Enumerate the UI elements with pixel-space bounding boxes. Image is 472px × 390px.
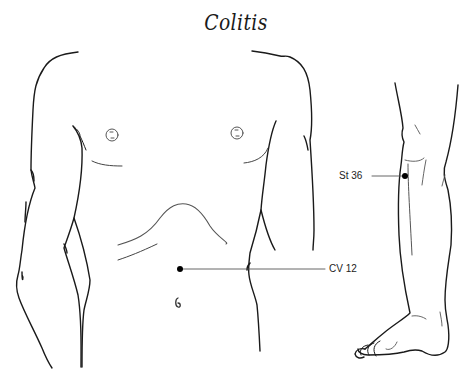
rib-arc [118, 204, 227, 245]
st36-label: St 36 [339, 170, 362, 181]
nipple-right [231, 127, 243, 139]
anatomy-illustration [0, 0, 472, 390]
navel-mark [176, 298, 181, 307]
nipple-left [106, 129, 118, 141]
st36-point-dot [402, 173, 408, 179]
cv12-point-dot [177, 266, 183, 272]
torso-figure [17, 51, 314, 368]
cv12-label: CV 12 [329, 263, 357, 274]
leg-figure [355, 83, 458, 358]
